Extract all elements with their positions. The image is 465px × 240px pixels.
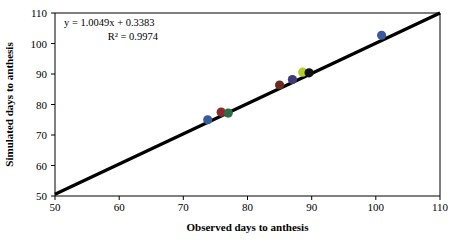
chart-container: 50 60 70 80 90 100 110 50 60 70 80 90 10…	[0, 0, 465, 240]
x-tick-label: 60	[114, 201, 126, 213]
y-tick-label: 90	[36, 68, 48, 80]
x-axis-title: Observed days to anthesis	[187, 221, 310, 233]
y-axis-title: Simulated days to anthesis	[3, 42, 15, 167]
data-point	[275, 80, 284, 89]
y-tick-label: 100	[31, 38, 48, 50]
data-point	[305, 68, 314, 77]
x-tick-label: 70	[178, 201, 190, 213]
r-squared-label: R² = 0.9974	[108, 31, 159, 42]
data-point	[203, 115, 212, 124]
x-tick-label: 50	[50, 201, 62, 213]
data-point	[377, 31, 386, 40]
y-tick-label: 60	[36, 160, 48, 172]
y-tick-label: 50	[36, 190, 48, 202]
data-point	[224, 108, 233, 117]
data-point	[288, 75, 297, 84]
y-tick-label: 80	[36, 99, 48, 111]
chart-background	[0, 0, 465, 240]
scatter-plot: 50 60 70 80 90 100 110 50 60 70 80 90 10…	[0, 0, 465, 240]
x-tick-label: 80	[242, 201, 254, 213]
x-tick-label: 90	[306, 201, 318, 213]
x-tick-label: 100	[368, 201, 385, 213]
x-tick-label: 110	[432, 201, 449, 213]
y-tick-label: 70	[36, 129, 48, 141]
y-tick-label: 110	[31, 7, 48, 19]
regression-equation: y = 1.0049x + 0.3383	[64, 17, 155, 28]
